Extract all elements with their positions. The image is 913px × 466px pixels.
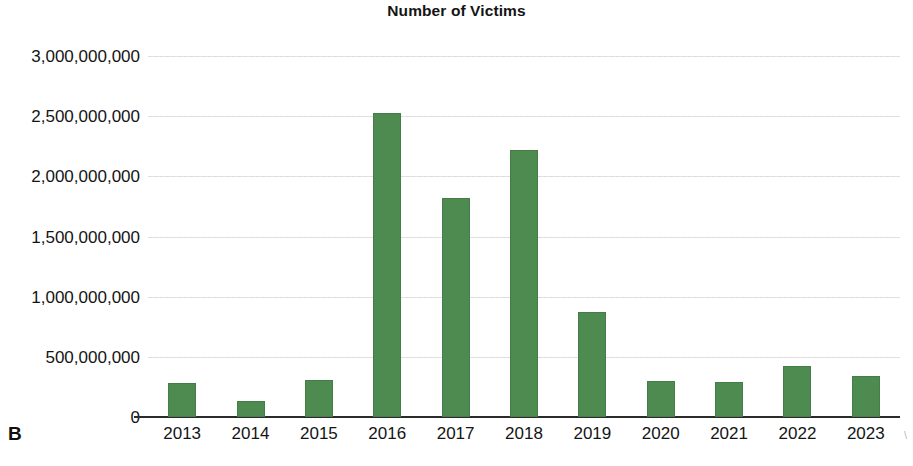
x-tick-label-2014: 2014 [232, 424, 270, 444]
x-tick-label-2021: 2021 [710, 424, 748, 444]
figure-panel-b: Number of Victims 0500,000,0001,000,000,… [0, 0, 913, 466]
x-tick-label-2018: 2018 [505, 424, 543, 444]
y-tick-label: 1,500,000,000 [31, 228, 140, 245]
bar-2018[interactable] [510, 150, 538, 417]
bar-2022[interactable] [783, 366, 811, 417]
bar-2016[interactable] [373, 113, 401, 417]
bar-2017[interactable] [442, 198, 470, 417]
gridline [148, 116, 900, 117]
x-tick-label-2022: 2022 [779, 424, 817, 444]
gridline [148, 56, 900, 57]
y-tick-label: 500,000,000 [45, 348, 140, 365]
bar-2023[interactable] [852, 376, 880, 417]
x-tick-label-2019: 2019 [573, 424, 611, 444]
y-tick-label: 2,000,000,000 [31, 168, 140, 185]
x-tick-label-2017: 2017 [437, 424, 475, 444]
x-tick-label-2013: 2013 [163, 424, 201, 444]
bar-2020[interactable] [647, 381, 675, 417]
plot-area [148, 56, 900, 417]
y-tick-label: 2,500,000,000 [31, 108, 140, 125]
bar-2013[interactable] [168, 383, 196, 417]
bar-2019[interactable] [578, 312, 606, 417]
x-tick-label-2023: 2023 [847, 424, 885, 444]
y-axis-tick-labels: 0500,000,0001,000,000,0001,500,000,0002,… [0, 0, 140, 466]
x-tick-label-2020: 2020 [642, 424, 680, 444]
bar-2015[interactable] [305, 380, 333, 417]
y-tick-label: 3,000,000,000 [31, 48, 140, 65]
bar-2014[interactable] [237, 401, 265, 417]
panel-label: B [8, 423, 22, 445]
bar-2021[interactable] [715, 382, 743, 417]
x-tick-label-2016: 2016 [368, 424, 406, 444]
y-tick-label: 1,000,000,000 [31, 288, 140, 305]
x-axis-tick-labels: 2013201420152016201720182019202020212022… [148, 424, 900, 454]
edge-artifact: \ [904, 430, 912, 440]
x-tick-label-2015: 2015 [300, 424, 338, 444]
